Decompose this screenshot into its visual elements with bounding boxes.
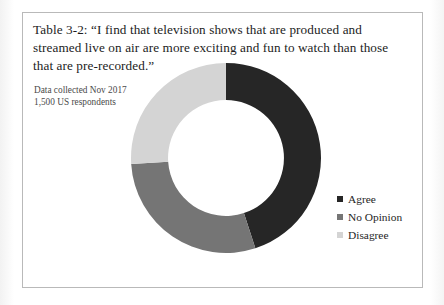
data-note: Data collected Nov 2017 1,500 US respond… bbox=[34, 85, 127, 108]
legend-swatch-agree bbox=[337, 196, 343, 202]
figure-box: Table 3-2: “I find that television shows… bbox=[22, 12, 423, 288]
data-note-line-2: 1,500 US respondents bbox=[34, 97, 127, 109]
legend-swatch-no-opinion bbox=[337, 214, 343, 220]
legend-swatch-disagree bbox=[337, 232, 343, 238]
donut-slice-disagree bbox=[131, 63, 226, 164]
legend-label-no-opinion: No Opinion bbox=[348, 211, 402, 224]
donut-slice-group bbox=[131, 63, 321, 253]
donut-chart bbox=[130, 62, 322, 254]
legend-label-disagree: Disagree bbox=[348, 229, 388, 242]
legend-item-disagree: Disagree bbox=[337, 226, 425, 244]
legend-label-agree: Agree bbox=[348, 193, 376, 206]
data-note-line-1: Data collected Nov 2017 bbox=[34, 85, 127, 97]
donut-chart-svg bbox=[130, 62, 322, 254]
legend-item-no-opinion: No Opinion bbox=[337, 208, 425, 226]
donut-slice-no-opinion bbox=[131, 162, 255, 253]
legend-item-agree: Agree bbox=[337, 190, 425, 208]
chart-legend: Agree No Opinion Disagree bbox=[337, 190, 425, 244]
